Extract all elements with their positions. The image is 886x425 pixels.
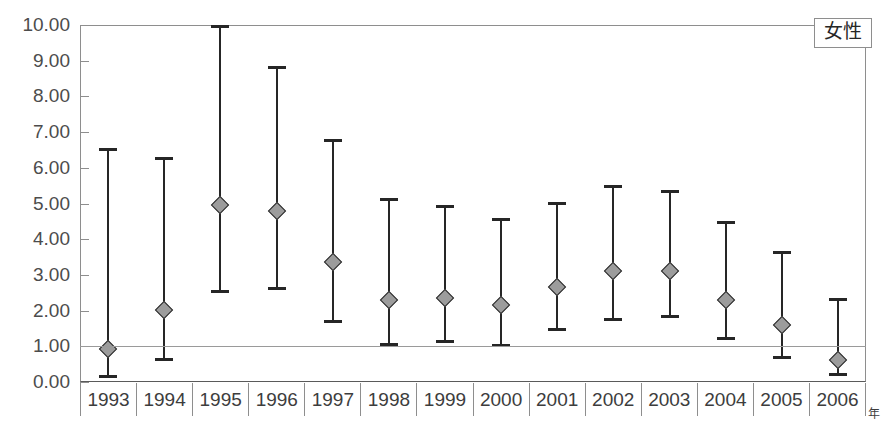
- data-point-marker: [829, 351, 847, 369]
- x-tick-label: 2005: [753, 383, 809, 416]
- error-bar-cap-lower: [604, 318, 622, 321]
- y-tick-mark: [80, 239, 89, 240]
- data-series-layer: [80, 0, 866, 425]
- x-tick-label: 2004: [697, 383, 753, 416]
- error-bar-cap-upper: [548, 202, 566, 205]
- y-tick-mark: [80, 204, 89, 205]
- error-bar-stem: [612, 185, 614, 321]
- error-bar-cap-upper: [773, 251, 791, 254]
- y-tick-label: 5.00: [33, 193, 70, 215]
- error-bar-cap-lower: [155, 358, 173, 361]
- data-point-marker: [99, 340, 117, 358]
- x-tick-label: 2003: [641, 383, 697, 416]
- y-tick-label: 6.00: [33, 157, 70, 179]
- x-tick-label: 1995: [192, 383, 248, 416]
- error-bar-stem: [725, 221, 727, 340]
- error-bar-cap-upper: [492, 218, 510, 221]
- error-bar-stem: [500, 218, 502, 347]
- y-tick-label: 3.00: [33, 264, 70, 286]
- error-bar-cap-lower: [324, 320, 342, 323]
- legend-label: 女性: [824, 20, 862, 42]
- data-point-marker: [267, 202, 285, 220]
- error-bar-cap-lower: [268, 287, 286, 290]
- error-bar-stem: [669, 190, 671, 318]
- y-axis-labels: 0.001.002.003.004.005.006.007.008.009.00…: [0, 0, 70, 425]
- y-tick-mark: [80, 382, 89, 383]
- data-point-marker: [380, 291, 398, 309]
- y-tick-mark: [80, 132, 89, 133]
- y-tick-label: 7.00: [33, 121, 70, 143]
- error-bar-cap-upper: [717, 221, 735, 224]
- error-bar-cap-lower: [829, 373, 847, 376]
- x-tick-label: 1996: [248, 383, 304, 416]
- error-bar-cap-upper: [436, 205, 454, 208]
- data-point-marker: [604, 261, 622, 279]
- error-bar-stem: [444, 205, 446, 343]
- y-tick-label: 10.00: [22, 14, 70, 36]
- x-tick-label: 2001: [529, 383, 585, 416]
- data-point-marker: [660, 262, 678, 280]
- y-tick-mark: [80, 168, 89, 169]
- data-point-marker: [716, 291, 734, 309]
- error-bar-cap-lower: [661, 315, 679, 318]
- error-bar-cap-upper: [829, 298, 847, 301]
- error-bar-cap-lower: [99, 375, 117, 378]
- error-bar-cap-lower: [717, 337, 735, 340]
- y-tick-mark: [80, 311, 89, 312]
- error-bar-cap-upper: [268, 66, 286, 69]
- data-point-marker: [436, 289, 454, 307]
- data-point-marker: [211, 196, 229, 214]
- error-bar-stem: [219, 25, 221, 293]
- legend-box: 女性: [814, 18, 872, 48]
- error-bar-cap-upper: [324, 139, 342, 142]
- data-point-marker: [155, 301, 173, 319]
- error-bar-cap-lower: [548, 328, 566, 331]
- error-bar-cap-upper: [380, 198, 398, 201]
- error-bar-stem: [276, 66, 278, 290]
- y-tick-label: 4.00: [33, 228, 70, 250]
- data-point-marker: [323, 253, 341, 271]
- y-tick-mark: [80, 96, 89, 97]
- error-bar-cap-upper: [661, 190, 679, 193]
- x-tick-label: 2002: [585, 383, 641, 416]
- x-tick-label: 1999: [416, 383, 472, 416]
- data-point-marker: [492, 296, 510, 314]
- data-point-marker: [773, 316, 791, 334]
- x-tick-label: 2006: [809, 383, 866, 416]
- y-tick-label: 9.00: [33, 50, 70, 72]
- error-bar-stem: [556, 202, 558, 332]
- error-bar-cap-upper: [99, 148, 117, 151]
- error-bar-stem: [781, 251, 783, 359]
- y-tick-mark: [80, 25, 89, 26]
- x-tick-label: 1994: [136, 383, 192, 416]
- reference-line: [80, 346, 866, 347]
- error-bar-cap-lower: [436, 340, 454, 343]
- error-bar-cap-lower: [211, 290, 229, 293]
- error-bar-stem: [332, 139, 334, 323]
- x-axis-labels: 1993199419951996199719981999200020012002…: [80, 383, 866, 416]
- y-tick-label: 0.00: [33, 371, 70, 393]
- x-axis-unit-label: 年: [868, 404, 880, 421]
- chart-root: 0.001.002.003.004.005.006.007.008.009.00…: [0, 0, 886, 425]
- x-tick-label: 2000: [473, 383, 529, 416]
- x-tick-label: 1993: [80, 383, 136, 416]
- x-tick-label: 1997: [304, 383, 360, 416]
- y-tick-mark: [80, 275, 89, 276]
- y-tick-label: 2.00: [33, 300, 70, 322]
- error-bar-stem: [163, 157, 165, 360]
- error-bar-cap-lower: [773, 356, 791, 359]
- data-point-marker: [548, 278, 566, 296]
- error-bar-cap-upper: [604, 185, 622, 188]
- error-bar-cap-upper: [211, 25, 229, 28]
- x-tick-label: 1998: [360, 383, 416, 416]
- error-bar-cap-upper: [155, 157, 173, 160]
- error-bar-stem: [388, 198, 390, 346]
- y-tick-label: 1.00: [33, 335, 70, 357]
- y-tick-mark: [80, 61, 89, 62]
- y-tick-label: 8.00: [33, 85, 70, 107]
